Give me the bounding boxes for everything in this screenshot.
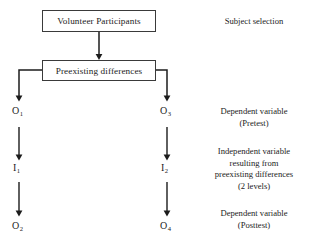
node-label-o3-letter: O bbox=[160, 105, 167, 116]
node-label-i2: I2 bbox=[161, 163, 168, 173]
node-label-o3: O3 bbox=[160, 106, 171, 116]
node-label-o2: O2 bbox=[12, 221, 23, 231]
node-label-o1-subscript: 1 bbox=[20, 110, 23, 117]
annotation-independent-variable: Independent variable resulting from pree… bbox=[190, 146, 318, 192]
box-preexisting-differences: Preexisting differences bbox=[42, 60, 156, 81]
annotation-dependent-posttest: Dependent variable (Posttest) bbox=[196, 208, 312, 231]
node-label-o3-subscript: 3 bbox=[168, 110, 171, 117]
node-label-o2-letter: O bbox=[12, 220, 19, 231]
box-preexisting-differences-label: Preexisting differences bbox=[56, 66, 143, 76]
node-label-i1-subscript: 1 bbox=[17, 167, 20, 174]
node-label-o1: O1 bbox=[12, 106, 23, 116]
node-label-o4-subscript: 4 bbox=[168, 225, 171, 232]
node-label-o1-letter: O bbox=[12, 105, 19, 116]
box-volunteer-participants-label: Volunteer Participants bbox=[57, 16, 140, 26]
node-label-o2-subscript: 2 bbox=[20, 225, 23, 232]
box-volunteer-participants: Volunteer Participants bbox=[42, 10, 156, 32]
node-label-i1: I1 bbox=[13, 163, 20, 173]
node-label-o4: O4 bbox=[160, 221, 171, 231]
node-label-o4-letter: O bbox=[160, 220, 167, 231]
connector-branch-right bbox=[156, 70, 167, 96]
node-label-i2-letter: I bbox=[161, 162, 164, 173]
node-label-i1-letter: I bbox=[13, 162, 16, 173]
annotation-dependent-pretest: Dependent variable (Pretest) bbox=[196, 106, 312, 129]
diagram-canvas: Volunteer Participants Preexisting diffe… bbox=[0, 0, 320, 245]
connector-branch-left bbox=[19, 70, 42, 96]
annotation-subject-selection: Subject selection bbox=[196, 16, 312, 28]
node-label-i2-subscript: 2 bbox=[165, 167, 168, 174]
